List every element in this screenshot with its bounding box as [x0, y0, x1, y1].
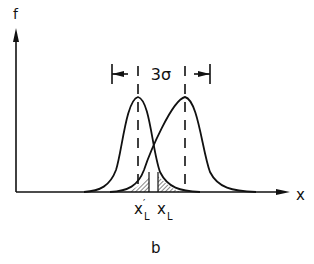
left-distribution-curve: [84, 97, 200, 192]
svg-text:L: L: [167, 211, 173, 222]
svg-text:′: ′: [143, 198, 146, 209]
label-x-prime-L: x ′ L: [134, 198, 150, 222]
label-x-L: x L: [157, 200, 173, 222]
svg-text:x: x: [134, 200, 143, 218]
right-distribution-curve: [110, 97, 256, 192]
x-axis-label: x: [296, 186, 305, 204]
x-axis-arrow-icon: [276, 189, 290, 195]
y-axis: [13, 28, 19, 192]
dimension-label: 3σ: [151, 65, 171, 84]
svg-text:x: x: [157, 200, 166, 218]
panel-label: b: [151, 239, 161, 257]
y-axis-arrow-icon: [13, 28, 19, 42]
dimension-arrow-left-icon: [112, 71, 124, 77]
diagram-canvas: f x 3σ x ′ L x L b: [0, 0, 314, 264]
dimension-arrow-right-icon: [198, 71, 210, 77]
y-axis-label: f: [13, 6, 19, 22]
svg-text:L: L: [144, 211, 150, 222]
